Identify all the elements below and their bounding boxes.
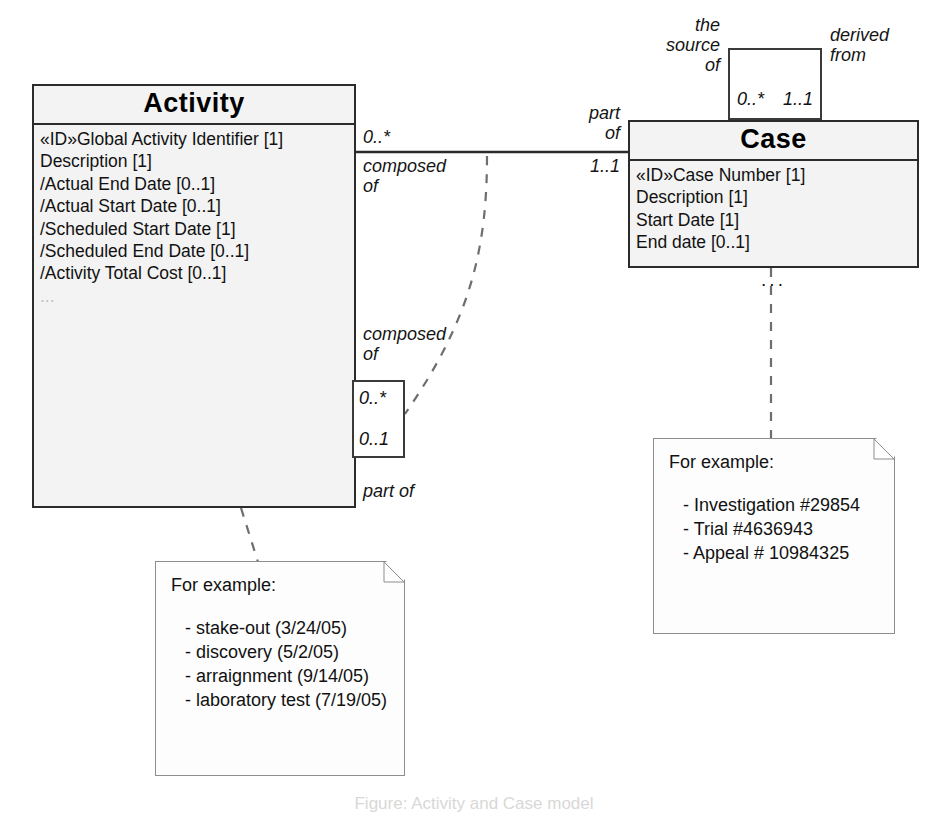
note-content: For example: - stake-out (3/24/05) - dis… [155,561,405,727]
attribute-ellipsis: ... [636,254,911,292]
class-attributes-activity: «ID»Global Activity Identifier [1] Descr… [34,125,354,309]
attribute-row: «ID»Global Activity Identifier [1] [40,128,348,150]
role-part-of-case: part of [530,104,620,144]
multiplicity-case-end: 1..1 [530,157,620,177]
uml-diagram-canvas: Activity «ID»Global Activity Identifier … [0,0,948,816]
attribute-row: /Scheduled Start Date [1] [40,218,348,240]
multiplicity-right: 1..1 [783,89,813,110]
note-case-examples[interactable]: For example: - Investigation #29854 - Tr… [653,438,895,634]
attribute-row: Description [1] [40,150,348,172]
note-item: - Appeal # 10984325 [669,542,879,566]
class-attributes-case: «ID»Case Number [1] Description [1] Star… [630,161,917,294]
class-box-activity[interactable]: Activity «ID»Global Activity Identifier … [32,84,356,508]
multiplicity-left: 0..* [737,89,764,110]
attribute-row: /Actual Start Date [0..1] [40,195,348,217]
attribute-row: «ID»Case Number [1] [636,164,911,186]
note-item: - Trial #4636943 [669,518,879,542]
association-multiplicity-box-case-derived[interactable]: 0..* 1..1 [728,48,822,120]
note-heading: For example: [171,575,389,595]
attribute-row: End date [0..1] [636,231,911,253]
multiplicity-activity-end: 0..* [363,128,390,148]
note-item: - Investigation #29854 [669,494,879,518]
self-association-multiplicity-box[interactable]: 0..* 0..1 [352,380,405,458]
attribute-ellipsis: ... [40,285,348,307]
note-item: - discovery (5/2/05) [171,641,389,665]
note-item: - stake-out (3/24/05) [171,617,389,641]
dashed-anchor-activity-note [241,508,258,562]
self-multiplicity-top: 0..* [359,388,386,409]
role-part-of-self: part of [363,482,414,502]
note-heading: For example: [669,452,879,472]
class-title-activity: Activity [34,86,354,125]
note-item: - arraignment (9/14/05) [171,665,389,689]
attribute-row: Start Date [1] [636,209,911,231]
figure-caption: Figure: Activity and Case model [0,794,948,814]
class-box-case[interactable]: Case «ID»Case Number [1] Description [1]… [628,120,919,268]
attribute-row: /Scheduled End Date [0..1] [40,240,348,262]
attribute-row: /Activity Total Cost [0..1] [40,262,348,284]
note-content: For example: - Investigation #29854 - Tr… [653,438,895,580]
role-composed-of-activity-case: composed of [363,157,467,197]
attribute-row: Description [1] [636,186,911,208]
attribute-row: /Actual End Date [0..1] [40,173,348,195]
note-item: - laboratory test (7/19/05) [171,689,389,713]
role-composed-of-self: composed of [363,325,473,365]
class-title-case: Case [630,122,917,161]
label-derived-from: derived from [830,26,930,66]
self-multiplicity-bottom: 0..1 [359,429,389,450]
label-the-source-of: the source of [640,16,720,75]
note-activity-examples[interactable]: For example: - stake-out (3/24/05) - dis… [155,561,405,776]
